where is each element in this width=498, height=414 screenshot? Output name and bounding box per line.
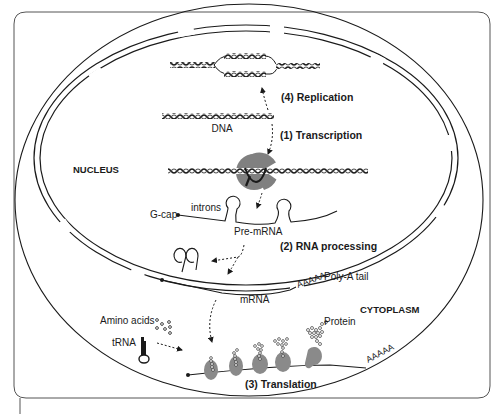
dna-label: DNA [211, 123, 232, 134]
replication-arrow [262, 88, 268, 110]
intron-removal-arrow [212, 245, 244, 261]
protein-label: Protein [324, 316, 356, 327]
step-transcription: (1) Transcription [280, 129, 362, 141]
ribosome-2 [229, 349, 243, 376]
ribosome-3 [252, 343, 268, 374]
central-dogma-diagram: (4) Replication DNA (1) Transcription NU… [0, 0, 498, 414]
ribosomes [204, 338, 322, 380]
cytoplasm-label: CYTOPLASM [360, 304, 420, 315]
poly-a-tail-label: Poly-A tail [324, 271, 368, 282]
dna-helix [162, 113, 274, 119]
trna-label: tRNA [112, 337, 136, 348]
step-rna-processing: (2) RNA processing [280, 240, 377, 252]
step-translation: (3) Translation [245, 378, 317, 390]
cell-membrane [15, 4, 483, 396]
trna-icon [139, 337, 149, 363]
poly-a-sequence-2: AAAAA [364, 342, 395, 365]
ribosome-4 [274, 338, 291, 372]
pre-mrna-label: Pre-mRNA [234, 226, 283, 237]
excised-introns [174, 248, 198, 272]
replicating-dna [170, 53, 320, 77]
mrna-export-arrow [210, 300, 216, 342]
introns-label: introns [191, 202, 221, 213]
ribosome-1 [204, 357, 218, 380]
mature-mrna [160, 278, 296, 295]
amino-acid-beads [156, 319, 172, 335]
poly-a-sequence: AAAAA [295, 270, 327, 290]
trna-arrow [157, 343, 182, 350]
to-mrna-arrow [228, 257, 238, 274]
step-replication: (4) Replication [281, 91, 353, 103]
g-cap-label: G-cap [150, 209, 178, 220]
to-pre-mrna-arrow [257, 193, 262, 208]
rna-polymerase-complex [168, 153, 368, 190]
transcription-arrow [268, 124, 273, 154]
nucleus-label: NUCLEUS [73, 164, 119, 175]
amino-acids-label: Amino acids [100, 315, 154, 326]
mrna-label: mRNA [240, 294, 270, 305]
